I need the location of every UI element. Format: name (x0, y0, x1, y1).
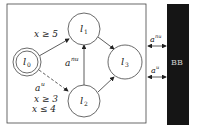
state-l1: l 1 (68, 13, 100, 45)
svg-text:l: l (23, 56, 26, 67)
guard-l0-l1: x ≥ 5 (34, 29, 58, 39)
state-l2: l 2 (68, 85, 100, 117)
svg-text:l: l (80, 23, 83, 34)
svg-text:a: a (35, 83, 40, 93)
state-l3: l 3 (108, 45, 142, 79)
svg-text:a: a (65, 58, 70, 68)
svg-text:nu: nu (155, 33, 161, 39)
state-l0: l 0 (13, 48, 41, 76)
interface-label-u: a u (151, 64, 159, 75)
svg-text:nu: nu (71, 55, 79, 62)
svg-text:2: 2 (84, 100, 88, 107)
svg-text:l: l (121, 56, 124, 67)
black-box-label: BB (171, 58, 183, 67)
svg-text:x ≥ 3: x ≥ 3 (34, 94, 58, 104)
svg-text:1: 1 (84, 28, 88, 35)
svg-text:u: u (156, 64, 159, 70)
svg-text:l: l (80, 95, 83, 106)
svg-text:u: u (41, 80, 45, 87)
interface-label-nu: a nu (150, 33, 161, 44)
automaton-diagram: l 0 l 1 l 2 l 3 x ≥ 5 a nu a u x ≥ 3 x ≤… (0, 0, 198, 132)
svg-text:3: 3 (125, 61, 129, 68)
svg-text:0: 0 (27, 61, 31, 68)
svg-text:x ≤ 4: x ≤ 4 (32, 104, 56, 114)
